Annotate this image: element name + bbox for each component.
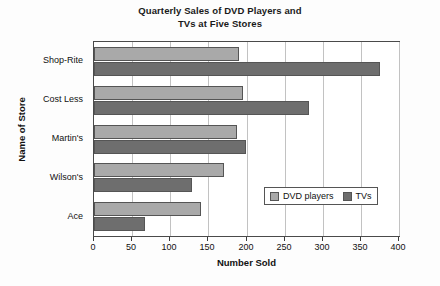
y-axis-tick-labels: AceWilson'sMartin'sCost LessShop-Rite [0, 41, 89, 237]
x-axis-tick [93, 237, 94, 241]
bar-dvd-players [94, 47, 239, 61]
legend-label-dvd-players: DVD players [283, 191, 334, 201]
x-axis-tick [207, 237, 208, 241]
x-axis-title: Number Sold [93, 257, 400, 268]
y-axis-tick-label: Cost Less [43, 94, 83, 104]
x-axis-tick-label: 250 [264, 242, 304, 252]
x-axis-tick [131, 237, 132, 241]
legend-label-tvs: TVs [356, 191, 372, 201]
bar-tvs [94, 101, 309, 115]
chart-page: Quarterly Sales of DVD Players and TVs a… [0, 0, 440, 286]
x-axis-tick-label: 50 [111, 242, 151, 252]
y-axis-tick-label: Martin's [52, 133, 83, 143]
y-axis-title: Name of Store [16, 70, 27, 190]
x-axis-tick [360, 237, 361, 241]
x-axis-tick-label: 0 [73, 242, 113, 252]
bar-tvs [94, 178, 192, 192]
gridline [399, 42, 400, 236]
bar-series-container [94, 42, 399, 236]
legend-swatch-dvd-players [270, 192, 279, 201]
x-axis-tick [322, 237, 323, 241]
legend-entry-tvs: TVs [343, 191, 372, 201]
bar-dvd-players [94, 125, 237, 139]
plot-area [93, 41, 400, 237]
x-axis-tick-labels: 050100150200250300350400 [93, 242, 400, 256]
legend-swatch-tvs [343, 192, 352, 201]
chart-title: Quarterly Sales of DVD Players and TVs a… [0, 4, 440, 30]
x-axis-tick [284, 237, 285, 241]
x-axis-tick-label: 400 [378, 242, 418, 252]
y-axis-tick-label: Shop-Rite [43, 55, 83, 65]
x-axis-tick [398, 237, 399, 241]
x-axis-tick-label: 200 [226, 242, 266, 252]
x-axis-tick-label: 100 [149, 242, 189, 252]
x-axis-tick-label: 150 [187, 242, 227, 252]
bar-dvd-players [94, 202, 201, 216]
bar-tvs [94, 140, 246, 154]
bar-tvs [94, 217, 145, 231]
bar-dvd-players [94, 86, 243, 100]
x-axis-tick [246, 237, 247, 241]
x-axis-tick [169, 237, 170, 241]
bar-dvd-players [94, 163, 224, 177]
x-axis-tick-label: 350 [340, 242, 380, 252]
y-axis-tick-label: Ace [67, 211, 83, 221]
chart-title-line-1: Quarterly Sales of DVD Players and [0, 4, 440, 17]
chart-legend: DVD players TVs [264, 187, 378, 205]
legend-entry-dvd-players: DVD players [270, 191, 334, 201]
bar-tvs [94, 62, 380, 76]
x-axis-tick-label: 300 [302, 242, 342, 252]
y-axis-tick-label: Wilson's [50, 172, 83, 182]
chart-title-line-2: TVs at Five Stores [0, 17, 440, 30]
